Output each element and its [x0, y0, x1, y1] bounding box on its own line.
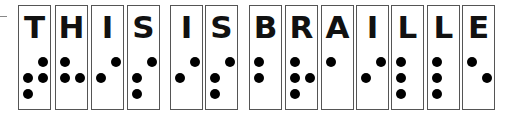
- braille-dot-1: [326, 57, 336, 67]
- margin-dash: [0, 16, 7, 17]
- braille-dot-2: [96, 73, 106, 83]
- braille-cell-s: S: [205, 5, 238, 110]
- braille-dot-1: [467, 57, 477, 67]
- braille-dot-4: [38, 57, 48, 67]
- braille-dot-5: [38, 73, 48, 83]
- braille-cell-a: A: [321, 5, 354, 110]
- braille-dot-1: [432, 57, 442, 67]
- braille-dot-5: [482, 73, 492, 83]
- braille-dot-3: [132, 89, 142, 99]
- braille-dot-3: [432, 89, 442, 99]
- braille-dot-4: [190, 57, 200, 67]
- braille-dot-2: [361, 73, 371, 83]
- cell-letter: I: [171, 9, 202, 45]
- cell-letter: A: [322, 9, 353, 45]
- braille-cell-l: L: [391, 5, 424, 110]
- braille-dot-2: [396, 73, 406, 83]
- braille-dot-3: [23, 89, 33, 99]
- braille-dot-5: [305, 73, 315, 83]
- cell-letter: L: [392, 9, 423, 45]
- cell-letter: H: [56, 9, 87, 45]
- braille-dot-2: [254, 73, 264, 83]
- cell-letter: R: [286, 9, 317, 45]
- braille-cell-t: T: [18, 5, 51, 110]
- braille-cell-l: L: [427, 5, 460, 110]
- braille-dot-1: [290, 57, 300, 67]
- braille-dot-1: [254, 57, 264, 67]
- braille-dot-2: [132, 73, 142, 83]
- braille-cell-e: E: [462, 5, 495, 110]
- braille-dot-2: [210, 73, 220, 83]
- cell-letter: S: [206, 9, 237, 45]
- cell-letter: T: [19, 9, 50, 45]
- braille-dot-4: [111, 57, 121, 67]
- braille-dot-2: [23, 73, 33, 83]
- cell-letter: E: [463, 9, 494, 45]
- braille-cell-b: B: [249, 5, 282, 110]
- braille-dot-2: [60, 73, 70, 83]
- braille-dot-2: [432, 73, 442, 83]
- braille-dot-4: [376, 57, 386, 67]
- cell-letter: L: [428, 9, 459, 45]
- cell-letter: S: [128, 9, 159, 45]
- braille-dot-1: [60, 57, 70, 67]
- braille-dot-2: [290, 73, 300, 83]
- braille-dot-4: [225, 57, 235, 67]
- braille-cell-h: H: [55, 5, 88, 110]
- braille-cell-s: S: [127, 5, 160, 110]
- braille-dot-2: [175, 73, 185, 83]
- braille-dot-1: [396, 57, 406, 67]
- braille-dot-3: [396, 89, 406, 99]
- cell-letter: I: [357, 9, 388, 45]
- braille-dot-3: [290, 89, 300, 99]
- braille-cell-i: I: [91, 5, 124, 110]
- braille-cell-i: I: [170, 5, 203, 110]
- braille-cell-r: R: [285, 5, 318, 110]
- braille-cell-i: I: [356, 5, 389, 110]
- braille-dot-4: [147, 57, 157, 67]
- braille-dot-3: [210, 89, 220, 99]
- braille-dot-5: [75, 73, 85, 83]
- cell-letter: B: [250, 9, 281, 45]
- cell-letter: I: [92, 9, 123, 45]
